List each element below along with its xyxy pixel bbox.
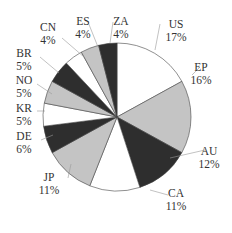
svg-text:11%: 11% (166, 200, 187, 212)
svg-text:6%: 6% (16, 143, 32, 155)
svg-text:5%: 5% (16, 60, 32, 72)
svg-text:4%: 4% (40, 34, 56, 46)
svg-text:5%: 5% (16, 87, 32, 99)
svg-text:CN: CN (40, 21, 57, 33)
svg-text:12%: 12% (198, 158, 220, 170)
svg-text:KR: KR (16, 102, 32, 114)
svg-text:NO: NO (16, 74, 33, 86)
slice-label-kr: KR5% (16, 102, 32, 127)
slice-label-jp: JP11% (39, 171, 60, 196)
leader-line (40, 57, 59, 73)
slice-label-za: ZA4% (113, 15, 129, 40)
svg-text:4%: 4% (113, 28, 129, 40)
svg-text:11%: 11% (39, 184, 60, 196)
svg-text:DE: DE (16, 130, 31, 142)
leader-line (150, 190, 168, 195)
slice-label-de: DE6% (16, 130, 32, 155)
svg-text:4%: 4% (75, 28, 91, 40)
slice-label-ep: EP16% (190, 61, 212, 86)
slice-label-cn: CN4% (40, 21, 57, 46)
svg-text:5%: 5% (16, 115, 32, 127)
svg-text:AU: AU (201, 145, 218, 157)
slice-label-ca: CA11% (166, 187, 187, 212)
slice-label-us: US17% (165, 18, 187, 43)
svg-text:JP: JP (44, 171, 55, 183)
pie-chart: US17%EP16%AU12%CA11%JP11%DE6%KR5%NO5%BR5… (0, 0, 232, 233)
leader-line (62, 38, 84, 57)
svg-text:17%: 17% (165, 31, 187, 43)
slice-label-es: ES4% (75, 15, 91, 40)
svg-text:US: US (169, 18, 184, 30)
svg-text:ZA: ZA (113, 15, 129, 27)
slice-label-au: AU12% (198, 145, 220, 170)
svg-text:BR: BR (16, 47, 32, 59)
svg-text:CA: CA (168, 187, 185, 199)
svg-text:ES: ES (76, 15, 89, 27)
svg-text:16%: 16% (190, 74, 212, 86)
svg-text:EP: EP (194, 61, 207, 73)
leader-line (155, 24, 160, 50)
slice-label-no: NO5% (16, 74, 33, 99)
slice-label-br: BR5% (16, 47, 32, 72)
